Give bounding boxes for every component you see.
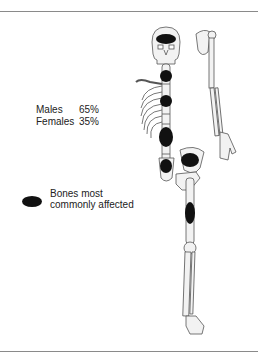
arm-icon [196,30,236,160]
lesion-femur-icon [185,202,195,224]
leg-icon [183,178,204,334]
lesion-thoracic-icon [160,95,172,107]
ribcage-icon [141,86,162,138]
lesion-lumbar-icon [159,127,173,147]
lesion-pelvis-icon [181,153,199,167]
lesion-cervical-icon [160,70,172,82]
lesion-sacrum-icon [160,159,172,173]
skull-icon [152,27,180,64]
skeleton-illustration [0,0,258,355]
